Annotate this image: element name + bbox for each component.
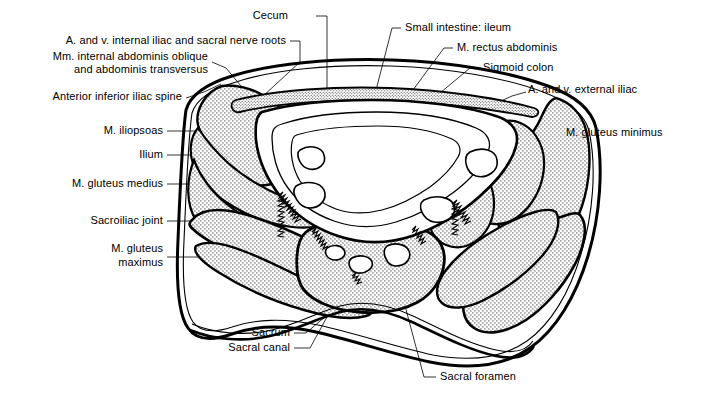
label-small-intestine: Small intestine: ileum — [405, 21, 511, 34]
label-gluteus-maximus2: maximus — [118, 256, 163, 269]
label-cecum: Cecum — [253, 9, 288, 22]
label-external-iliac: A. and v. external iliac — [528, 83, 637, 96]
label-sacral-foramen: Sacral foramen — [440, 370, 516, 383]
label-anterior-iliac-spine: Anterior inferior iliac spine — [53, 90, 182, 103]
label-sacroiliac-joint: Sacroiliac joint — [90, 214, 163, 227]
label-rectus-abdominis: M. rectus abdominis — [457, 41, 557, 54]
label-iliac-nerve-roots: A. and v. internal iliac and sacral nerv… — [66, 34, 286, 47]
label-iliopsoas: M. iliopsoas — [104, 124, 163, 137]
label-gluteus-maximus: M. gluteus — [111, 242, 163, 255]
sacral-foramen-right — [384, 244, 409, 266]
label-sacrum: Sacrum — [252, 326, 291, 339]
bowel-loop-b — [421, 197, 455, 222]
label-gluteus-minimus: M. gluteus minimus — [566, 126, 663, 139]
label-sigmoid-colon: Sigmoid colon — [483, 61, 553, 74]
bowel-loop-d — [466, 149, 497, 176]
sacral-canal-opening — [349, 256, 372, 273]
label-ilium: Ilium — [139, 148, 163, 161]
label-abdominis-oblique2: and abdominis transversus — [74, 63, 208, 76]
label-sacral-canal: Sacral canal — [228, 341, 290, 354]
label-gluteus-medius: M. gluteus medius — [72, 177, 163, 190]
label-abdominis-oblique: Mm. internal abdominis oblique — [53, 50, 208, 63]
sacral-foramen-left — [326, 246, 345, 260]
